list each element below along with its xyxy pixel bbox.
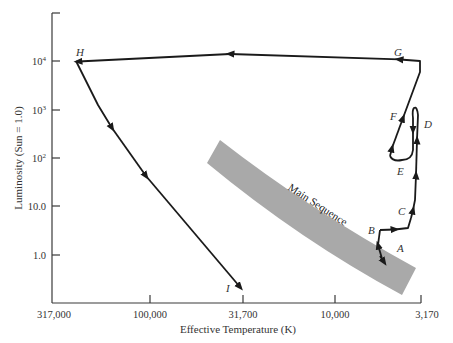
label-f: F [389,110,397,122]
svg-text:317,000: 317,000 [37,309,71,320]
svg-text:10.0: 10.0 [28,201,46,212]
svg-text:102: 102 [32,152,47,164]
label-a: A [396,242,404,254]
label-e: E [396,165,404,177]
svg-text:104: 104 [32,55,47,67]
label-b: B [368,224,375,236]
label-h: H [75,46,85,58]
svg-text:1.0: 1.0 [33,250,46,261]
label-c: C [398,205,406,217]
hr-diagram: Main Sequence 104 103 102 10.0 1.0 317,0… [0,0,453,343]
label-d: D [423,118,432,130]
svg-text:31,700: 31,700 [229,309,258,320]
svg-text:103: 103 [32,104,47,116]
svg-text:100,000: 100,000 [133,309,167,320]
y-axis-title: Luminosity (Sun = 1.0) [12,106,25,210]
svg-text:10,000: 10,000 [321,309,350,320]
label-i: I [225,282,231,294]
label-g: G [394,46,402,58]
x-tick-labels: 317,000 100,000 31,700 10,000 3,170 [37,309,439,320]
y-tick-labels: 104 103 102 10.0 1.0 [28,55,47,261]
x-axis-title: Effective Temperature (K) [180,323,296,336]
main-sequence-band [207,140,416,295]
svg-text:3,170: 3,170 [415,309,439,320]
